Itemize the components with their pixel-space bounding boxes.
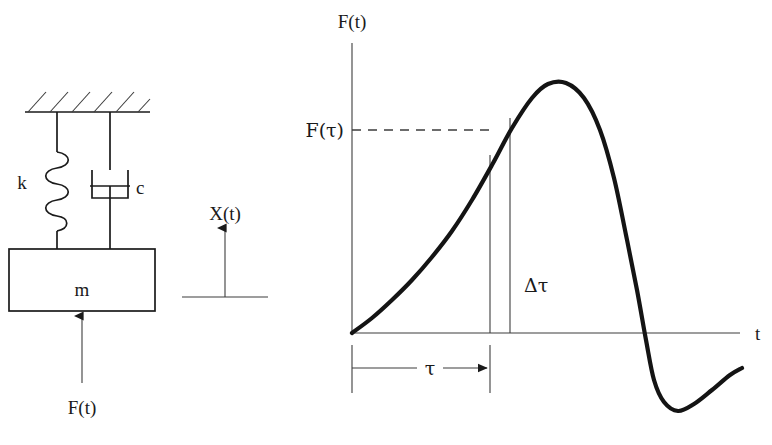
engineering-figure: k c m F(t) X(t) bbox=[0, 0, 772, 445]
displacement-arrow-icon bbox=[182, 228, 268, 297]
damper-element-icon bbox=[90, 112, 130, 249]
tau-label: τ bbox=[425, 357, 436, 379]
value-label: F(τ) bbox=[305, 119, 344, 141]
force-time-plot-group: F(t) t F(τ) Δτ τ bbox=[305, 11, 761, 411]
spring-element-icon bbox=[46, 112, 69, 249]
delta-tau-label: Δτ bbox=[524, 274, 548, 296]
y-axis-label: F(t) bbox=[338, 11, 367, 33]
damper-label: c bbox=[136, 177, 144, 198]
x-axis-label: t bbox=[755, 323, 761, 344]
force-curve bbox=[352, 82, 742, 411]
displacement-label: X(t) bbox=[209, 203, 241, 225]
spring-label: k bbox=[17, 172, 27, 193]
input-force-label: F(t) bbox=[68, 397, 97, 419]
figure-root: k c m F(t) X(t) bbox=[0, 0, 772, 445]
system-diagram-group: k c m F(t) X(t) bbox=[9, 92, 268, 419]
fixed-support-hatching-icon bbox=[25, 92, 150, 112]
tau-dimension-group bbox=[352, 345, 490, 393]
mass-label: m bbox=[75, 279, 90, 300]
